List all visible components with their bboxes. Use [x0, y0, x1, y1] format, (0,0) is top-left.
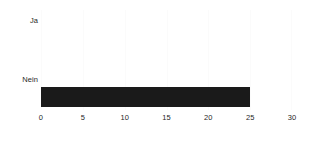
- category-label-nein: Nein: [22, 76, 38, 84]
- plot-area: [41, 10, 292, 110]
- xtick-label: 0: [39, 114, 43, 122]
- xtick-label: 25: [246, 114, 255, 122]
- bar-chart: Ja Nein 0 5 10 15 20 25 30: [0, 0, 312, 144]
- gridline: [291, 10, 292, 110]
- bar-nein: [41, 87, 250, 107]
- xtick-label: 10: [120, 114, 129, 122]
- gridline: [250, 10, 251, 110]
- xtick-label: 30: [288, 114, 297, 122]
- xtick-label: 15: [162, 114, 171, 122]
- xtick-label: 20: [204, 114, 213, 122]
- category-label-ja: Ja: [30, 17, 38, 25]
- xtick-label: 5: [81, 114, 85, 122]
